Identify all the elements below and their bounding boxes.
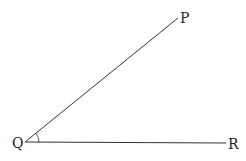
label-q: Q [12, 135, 23, 151]
angle-arc [36, 133, 39, 142]
label-r: R [228, 136, 239, 152]
label-p: P [180, 10, 189, 26]
angle-diagram: P Q R [0, 0, 246, 161]
ray-qp [25, 18, 178, 142]
ray-qr [25, 142, 226, 143]
